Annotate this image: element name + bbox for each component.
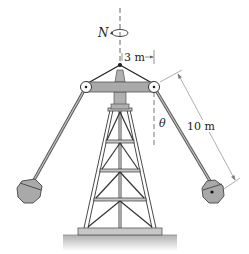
lattice-tower	[84, 108, 156, 228]
right-pivot-icon	[149, 82, 160, 93]
rotation-arrow-icon	[110, 30, 128, 37]
arm-length-label: 10 m	[187, 120, 215, 133]
left-gondola	[17, 179, 42, 203]
arm-offset-label: 3 m	[124, 51, 145, 64]
left-arm	[34, 87, 86, 180]
tower-base-plate	[78, 228, 162, 235]
rotation-label: N	[97, 26, 109, 40]
right-arm	[154, 87, 210, 181]
left-pivot-icon	[81, 82, 92, 93]
ground	[63, 235, 177, 251]
swing-ride-diagram: N 3 m θ	[0, 0, 249, 254]
crossbeam	[86, 82, 154, 92]
angle-label: θ	[159, 117, 166, 130]
right-gondola	[202, 180, 224, 203]
